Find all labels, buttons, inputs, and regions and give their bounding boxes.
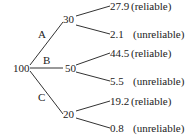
- branch-label-c: C: [38, 91, 45, 103]
- leaf-c-unreliable-value: 0.8: [110, 122, 124, 134]
- leaf-c-unreliable-status: (unreliable): [133, 122, 184, 134]
- branch-label-b: B: [43, 54, 50, 66]
- edge-root-c: [30, 71, 63, 114]
- node-a: 30: [63, 13, 74, 25]
- leaf-b-unreliable-value: 5.5: [110, 75, 124, 87]
- leaf-a-unreliable-status: (unreliable): [133, 28, 184, 40]
- leaf-a-reliable-status: (reliable): [131, 0, 171, 12]
- leaf-c-reliable-value: 19.2: [110, 95, 129, 107]
- root-node: 100: [13, 62, 30, 74]
- leaf-b-reliable-value: 44.5: [110, 47, 129, 59]
- leaf-b-reliable-status: (reliable): [131, 47, 171, 59]
- leaf-c-reliable-status: (reliable): [131, 95, 171, 107]
- branch-label-a: A: [38, 28, 46, 40]
- edge-c-unreliable: [76, 118, 110, 128]
- edge-a-reliable: [76, 6, 110, 16]
- leaf-b-unreliable-status: (unreliable): [133, 75, 184, 87]
- edge-b-reliable: [76, 53, 110, 65]
- edge-b-unreliable: [76, 72, 110, 81]
- edge-c-reliable: [76, 101, 110, 111]
- edge-a-unreliable: [76, 25, 110, 34]
- node-c: 20: [63, 108, 74, 120]
- node-b: 50: [65, 62, 76, 74]
- leaf-a-reliable-value: 27.9: [110, 0, 129, 12]
- leaf-a-unreliable-value: 2.1: [110, 28, 124, 40]
